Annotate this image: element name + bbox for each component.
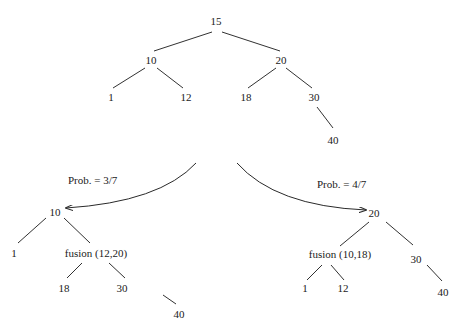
edge-l10-l1 <box>18 218 46 243</box>
left-node-30: 30 <box>117 282 129 294</box>
edge-l10-fusion <box>64 218 90 243</box>
left-node-18: 18 <box>59 282 71 294</box>
edge-10-1 <box>113 68 145 88</box>
node-20: 20 <box>276 54 288 66</box>
node-30: 30 <box>309 91 321 103</box>
edge-20-18 <box>248 68 276 88</box>
right-probability-label: Prob. = 4/7 <box>317 178 367 190</box>
node-1: 1 <box>108 91 114 103</box>
treap-fusion-diagram: 15 10 20 1 12 18 30 40 Prob. = 3/7 Prob.… <box>0 0 460 333</box>
left-probability-label: Prob. = 3/7 <box>68 174 118 186</box>
top-tree: 15 10 20 1 12 18 30 40 <box>108 15 339 146</box>
edge-10-12 <box>157 68 183 88</box>
right-fusion-node: fusion (10,18) <box>309 248 372 261</box>
edge-fusion-r12 <box>331 265 344 280</box>
node-12: 12 <box>181 91 192 103</box>
edge-20-30 <box>286 68 312 88</box>
left-fusion-node: fusion (12,20) <box>65 247 128 260</box>
left-node-10: 10 <box>50 206 62 218</box>
edge-fusion-l30 <box>109 263 125 278</box>
node-18: 18 <box>241 91 253 103</box>
edge-r20-fusion <box>340 222 369 246</box>
left-node-1: 1 <box>11 247 17 259</box>
edge-l40-stub <box>163 295 176 304</box>
right-result-tree: 20 fusion (10,18) 30 1 12 40 <box>302 207 449 298</box>
edge-fusion-l18 <box>67 263 82 278</box>
right-node-20: 20 <box>369 207 381 219</box>
edge-fusion-r1 <box>307 265 322 280</box>
left-node-40: 40 <box>174 308 186 320</box>
node-40: 40 <box>328 134 340 146</box>
edge-15-20 <box>222 32 280 51</box>
edge-30-40 <box>317 107 333 128</box>
right-node-40: 40 <box>438 286 450 298</box>
right-node-12: 12 <box>338 282 349 294</box>
edge-r20-r30 <box>386 222 413 245</box>
node-15: 15 <box>211 15 223 27</box>
right-node-30: 30 <box>411 253 423 265</box>
edge-15-10 <box>154 32 212 51</box>
node-10: 10 <box>146 54 158 66</box>
edge-r30-r40 <box>427 265 442 281</box>
left-result-tree: 10 1 fusion (12,20) 18 30 40 <box>11 206 185 320</box>
right-node-1: 1 <box>302 282 308 294</box>
branch-arrows: Prob. = 3/7 Prob. = 4/7 <box>66 163 367 210</box>
